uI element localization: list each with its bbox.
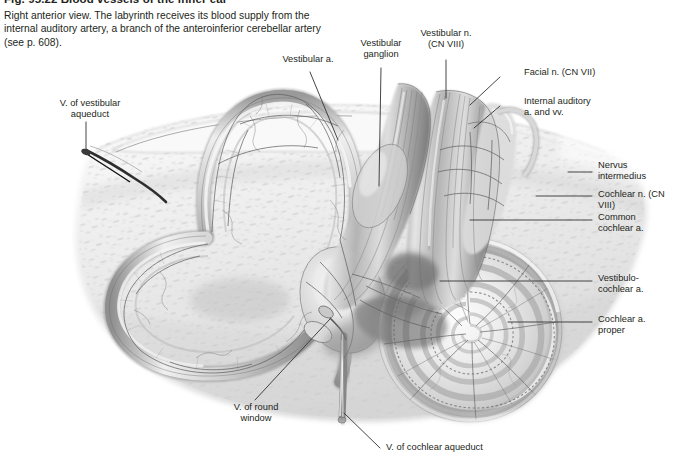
label-vein-of-round-window: V. of round window bbox=[206, 402, 306, 425]
figure-panel: Fig. 95.22 Blood vessels of the inner ea… bbox=[0, 0, 682, 455]
label-nervus-intermedius: Nervus intermedius bbox=[598, 160, 682, 183]
label-vestibular-nerve: Vestibular n. (CN VIII) bbox=[404, 28, 488, 51]
label-facial-nerve: Facial n. (CN VII) bbox=[524, 67, 674, 78]
label-internal-auditory-vessels: Internal auditory a. and vv. bbox=[524, 96, 674, 119]
label-vestibulocochlear-artery: Vestibulo- cochlear a. bbox=[598, 273, 682, 296]
label-vein-of-cochlear-aqueduct: V. of cochlear aqueduct bbox=[386, 442, 566, 453]
label-vein-of-vestibular-aqueduct: V. of vestibular aqueduct bbox=[42, 98, 138, 121]
label-cochlear-nerve: Cochlear n. (CN VIII) bbox=[598, 189, 682, 212]
figure-title: Fig. 95.22 Blood vessels of the inner ea… bbox=[4, 0, 227, 5]
figure-caption: Right anterior view. The labyrinth recei… bbox=[4, 9, 334, 49]
label-cochlear-artery-proper: Cochlear a. proper bbox=[598, 314, 682, 337]
label-common-cochlear-artery: Common cochlear a. bbox=[598, 212, 682, 235]
